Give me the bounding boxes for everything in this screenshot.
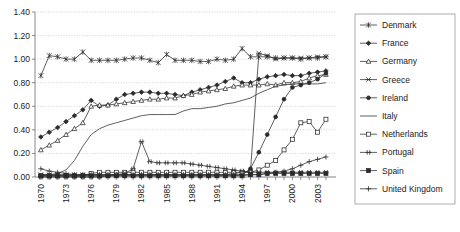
legend-label: Netherlands bbox=[382, 129, 428, 139]
marker-plus bbox=[323, 154, 328, 159]
legend-label: United Kingdom bbox=[382, 184, 442, 194]
marker-square bbox=[307, 171, 311, 175]
marker-square-open bbox=[316, 130, 320, 134]
marker-diamond bbox=[47, 130, 52, 135]
marker-plus bbox=[366, 186, 371, 191]
marker-diamond bbox=[39, 135, 44, 140]
marker-asterisk bbox=[38, 73, 43, 79]
x-tick-label: 1994 bbox=[237, 184, 247, 203]
marker-circle bbox=[367, 96, 371, 100]
legend-item-netherlands[interactable]: Netherlands bbox=[360, 129, 428, 139]
marker-asterisk bbox=[80, 49, 85, 55]
marker-triangle-open bbox=[72, 126, 77, 130]
marker-diamond bbox=[122, 92, 127, 97]
x-tick-label: 1970 bbox=[36, 184, 46, 203]
marker-square bbox=[47, 174, 51, 178]
marker-triangle-open bbox=[47, 143, 52, 147]
legend-label: Ireland bbox=[382, 93, 408, 103]
marker-asterisk bbox=[147, 58, 152, 64]
marker-diamond bbox=[290, 73, 295, 78]
marker-circle bbox=[316, 77, 320, 81]
x-tick-label: 1985 bbox=[162, 184, 172, 203]
line-chart: 0.000.200.400.600.801.001.201.4019701973… bbox=[0, 0, 460, 232]
marker-square bbox=[324, 171, 328, 175]
y-tick-label: 0.20 bbox=[13, 148, 30, 158]
marker-hash bbox=[155, 160, 161, 165]
legend-item-france[interactable]: France bbox=[360, 38, 409, 48]
marker-diamond bbox=[64, 119, 69, 124]
marker-circle bbox=[324, 71, 328, 75]
marker-circle bbox=[257, 150, 261, 154]
marker-square-open bbox=[307, 120, 311, 124]
y-tick-label: 0.60 bbox=[13, 101, 30, 111]
marker-hash bbox=[206, 164, 212, 169]
x-tick-label: 2000 bbox=[287, 184, 297, 203]
marker-diamond bbox=[131, 91, 136, 96]
legend-item-italy[interactable]: Italy bbox=[360, 111, 398, 121]
series-greece bbox=[38, 51, 329, 177]
marker-diamond bbox=[366, 41, 371, 46]
marker-circle bbox=[274, 115, 278, 119]
legend-label: Italy bbox=[382, 111, 398, 121]
marker-square-open bbox=[282, 148, 286, 152]
series-path bbox=[41, 74, 326, 149]
legend-label: Greece bbox=[382, 75, 410, 85]
marker-square-open bbox=[324, 117, 328, 121]
marker-diamond bbox=[139, 90, 144, 95]
x-tick-label: 1997 bbox=[262, 184, 272, 203]
marker-asterisk bbox=[164, 52, 169, 58]
marker-plus bbox=[298, 163, 303, 168]
marker-circle bbox=[265, 133, 269, 137]
marker-diamond bbox=[156, 91, 161, 96]
marker-triangle-open bbox=[55, 138, 60, 142]
x-tick-label: 1982 bbox=[136, 184, 146, 203]
marker-circle bbox=[282, 97, 286, 101]
marker-hash bbox=[197, 163, 203, 168]
legend-item-portugal[interactable]: Portugal bbox=[360, 147, 414, 157]
marker-square bbox=[39, 174, 43, 178]
marker-plus bbox=[307, 159, 312, 164]
marker-asterisk bbox=[240, 46, 245, 52]
marker-hash bbox=[164, 160, 170, 165]
marker-x-star bbox=[366, 77, 372, 82]
marker-triangle-open bbox=[39, 147, 44, 151]
legend-label: Spain bbox=[382, 166, 404, 176]
series-germany bbox=[39, 72, 329, 152]
x-tick-label: 1976 bbox=[86, 184, 96, 203]
marker-square bbox=[316, 171, 320, 175]
marker-triangle-open bbox=[298, 79, 303, 83]
marker-diamond bbox=[265, 75, 270, 80]
y-tick-label: 1.20 bbox=[13, 31, 30, 41]
marker-plus bbox=[315, 157, 320, 162]
marker-circle bbox=[291, 86, 295, 90]
marker-hash bbox=[147, 159, 153, 164]
marker-diamond bbox=[55, 125, 60, 130]
marker-hash bbox=[172, 160, 178, 165]
y-tick-label: 1.40 bbox=[13, 7, 30, 17]
legend-item-germany[interactable]: Germany bbox=[360, 56, 418, 66]
legend-item-denmark[interactable]: Denmark bbox=[360, 20, 417, 30]
marker-diamond bbox=[72, 113, 77, 118]
legend-item-united-kingdom[interactable]: United Kingdom bbox=[360, 184, 442, 194]
marker-square-open bbox=[299, 121, 303, 125]
marker-diamond bbox=[298, 73, 303, 78]
legend-item-greece[interactable]: Greece bbox=[360, 75, 410, 85]
series-path bbox=[41, 71, 326, 137]
marker-hash bbox=[366, 150, 372, 155]
y-tick-label: 0.00 bbox=[13, 172, 30, 182]
x-tick-label: 1991 bbox=[212, 184, 222, 203]
legend-item-spain[interactable]: Spain bbox=[360, 166, 404, 176]
y-tick-label: 1.00 bbox=[13, 54, 30, 64]
y-tick-label: 0.80 bbox=[13, 78, 30, 88]
legend-label: Denmark bbox=[382, 20, 417, 30]
marker-diamond bbox=[282, 72, 287, 77]
legend-item-ireland[interactable]: Ireland bbox=[360, 93, 408, 103]
marker-plus bbox=[38, 166, 43, 171]
series-path bbox=[41, 53, 326, 174]
marker-diamond bbox=[273, 73, 278, 78]
chart-figure: 0.000.200.400.600.801.001.201.4019701973… bbox=[0, 0, 460, 232]
marker-diamond bbox=[223, 79, 228, 84]
marker-square bbox=[290, 171, 294, 175]
x-tick-label: 2003 bbox=[313, 184, 323, 203]
marker-square-open bbox=[265, 163, 269, 167]
